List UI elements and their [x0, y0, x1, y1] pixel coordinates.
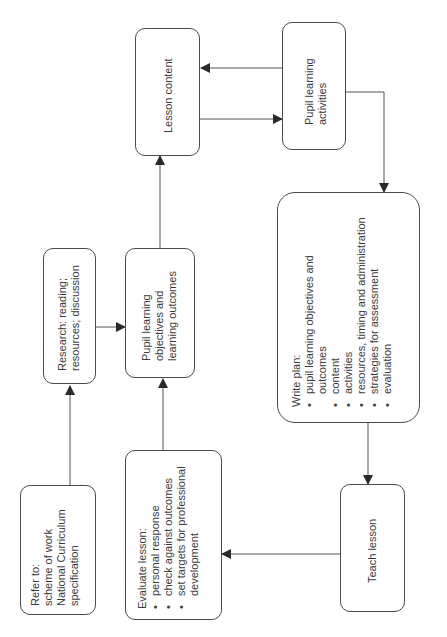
lesson-content-label: Lesson content [162, 58, 175, 133]
node-learning-activities: Pupil learning activities [282, 22, 346, 150]
write-plan-item: pupil learning objectives and outcomes [303, 212, 329, 407]
node-learning-objectives: Pupil learning objectives and learning o… [125, 248, 195, 378]
write-plan-item: resources, timing and administration [355, 212, 368, 407]
objectives-line: learning outcomes [166, 271, 179, 361]
evaluate-item: personal response [149, 459, 162, 609]
objectives-line: objectives and [153, 271, 166, 361]
teach-lesson-label: Teach lesson [366, 519, 379, 583]
refer-to-line: National Curriculum [55, 509, 68, 606]
write-plan-title: Write plan: [290, 212, 303, 407]
arrow-activities-to-plan [346, 92, 384, 192]
activities-line: activities [316, 58, 329, 125]
evaluate-text: Evaluate lesson: personal response check… [136, 459, 201, 609]
write-plan-item: evaluation [381, 212, 394, 407]
refer-to-text: Refer to: scheme of work National Curric… [29, 509, 81, 606]
refer-to-line: specification [68, 509, 81, 606]
node-research: Research: reading; resources; discussion [43, 248, 96, 384]
evaluate-title: Evaluate lesson: [136, 459, 149, 609]
write-plan-item: content [329, 212, 342, 407]
write-plan-item: strategies for assessment [368, 212, 381, 407]
refer-to-title: Refer to: [29, 509, 42, 606]
write-plan-item: activities [342, 212, 355, 407]
activities-line: Pupil learning [303, 58, 316, 125]
write-plan-text: Write plan: pupil learning objectives an… [290, 212, 394, 407]
evaluate-item: check against outcomes [162, 459, 175, 609]
node-write-plan: Write plan: pupil learning objectives an… [277, 192, 420, 423]
objectives-line: Pupil learning [140, 271, 153, 361]
research-line: Research: reading; [56, 265, 69, 371]
node-refer-to: Refer to: scheme of work National Curric… [20, 485, 96, 615]
node-teach-lesson: Teach lesson [340, 484, 405, 612]
node-evaluate-lesson: Evaluate lesson: personal response check… [125, 450, 222, 620]
activities-text: Pupil learning activities [303, 58, 329, 125]
refer-to-line: scheme of work [42, 509, 55, 606]
evaluate-item: set targets for professional development [175, 459, 201, 609]
objectives-text: Pupil learning objectives and learning o… [140, 271, 179, 361]
node-lesson-content: Lesson content [135, 28, 200, 156]
research-line: resources; discussion [69, 265, 82, 371]
research-text: Research: reading; resources; discussion [56, 265, 82, 371]
